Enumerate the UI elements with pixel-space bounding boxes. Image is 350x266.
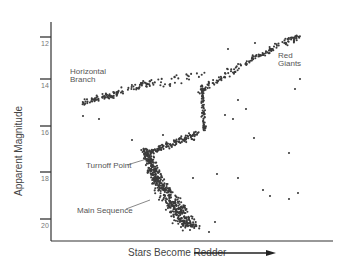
label-turnoff-point: Turnoff Point [86,161,132,170]
y-tick-label: 12 [41,40,49,47]
label-main-sequence: Main Sequence [77,206,133,215]
y-tick-label: 14 [41,82,49,89]
main-sequence-pointer [126,200,150,209]
y-tick-label: 20 [41,222,49,229]
y-axis-title: Apparent Magnitude [13,106,24,197]
label-red-giants-2: Giants [278,59,301,68]
y-tick-label: 18 [41,175,49,182]
hr-diagram: 1214161820 Apparent Magnitude Horizontal… [0,0,350,266]
label-horizontal-branch-2: Branch [70,75,95,84]
y-ticks: 1214161820 [40,37,51,229]
data-points [82,35,302,234]
redder-arrow-head [266,250,276,256]
y-tick-label: 16 [41,129,49,136]
